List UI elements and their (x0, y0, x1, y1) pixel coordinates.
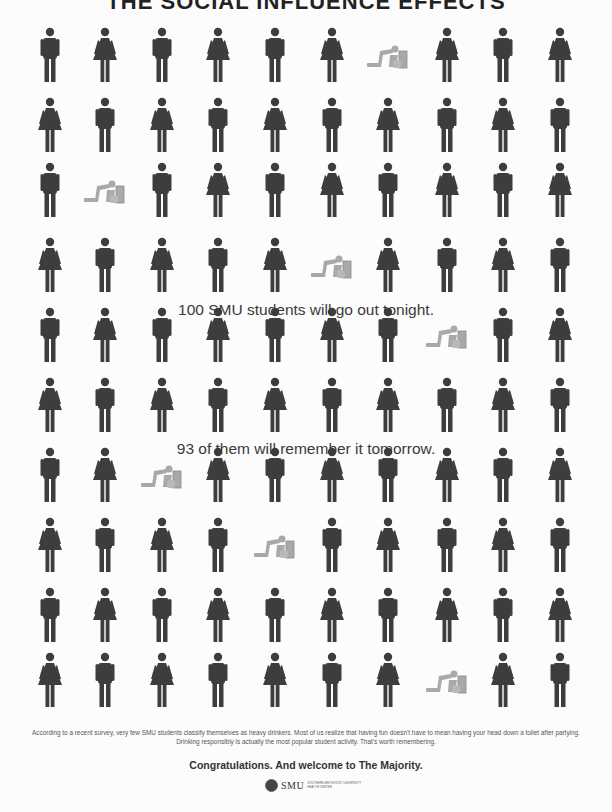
male-figure-icon (315, 517, 349, 573)
vomiting-figure-icon (83, 178, 127, 206)
female-figure-icon (88, 587, 122, 643)
male-figure-icon (258, 27, 292, 83)
poster: THE SOCIAL INFLUENCE EFFECTS 100 SMU stu… (0, 0, 612, 812)
caption-remember-tomorrow: 93 of them will remember it tomorrow. (0, 440, 612, 458)
male-figure-icon (201, 377, 235, 433)
female-figure-icon (486, 517, 520, 573)
male-figure-icon (201, 97, 235, 153)
female-figure-icon (258, 377, 292, 433)
logo-sub-line-2: HEALTH CENTER (307, 786, 361, 789)
male-figure-icon (430, 97, 464, 153)
logo-subtext: SOUTHERN METHODIST UNIVERSITY HEALTH CEN… (307, 782, 361, 789)
male-figure-icon (258, 587, 292, 643)
female-figure-icon (33, 237, 67, 293)
male-figure-icon (88, 517, 122, 573)
male-figure-icon (145, 587, 179, 643)
male-figure-icon (315, 652, 349, 708)
male-figure-icon (33, 27, 67, 83)
female-figure-icon (430, 162, 464, 218)
vomiting-figure-icon (425, 323, 469, 351)
female-figure-icon (543, 27, 577, 83)
female-figure-icon (145, 517, 179, 573)
male-figure-icon (315, 97, 349, 153)
male-figure-icon (430, 377, 464, 433)
female-figure-icon (145, 377, 179, 433)
female-figure-icon (315, 587, 349, 643)
female-figure-icon (258, 237, 292, 293)
female-figure-icon (486, 237, 520, 293)
female-figure-icon (145, 237, 179, 293)
female-figure-icon (201, 162, 235, 218)
female-figure-icon (258, 97, 292, 153)
male-figure-icon (201, 517, 235, 573)
female-figure-icon (371, 517, 405, 573)
female-figure-icon (145, 652, 179, 708)
female-figure-icon (371, 652, 405, 708)
female-figure-icon (33, 517, 67, 573)
male-figure-icon (201, 652, 235, 708)
survey-footnote: According to a recent survey, very few S… (30, 728, 582, 746)
female-figure-icon (486, 377, 520, 433)
male-figure-icon (145, 162, 179, 218)
female-figure-icon (543, 587, 577, 643)
male-figure-icon (543, 377, 577, 433)
male-figure-icon (88, 377, 122, 433)
male-figure-icon (430, 237, 464, 293)
female-figure-icon (543, 162, 577, 218)
smu-seal-icon (265, 779, 278, 792)
male-figure-icon (371, 162, 405, 218)
male-figure-icon (88, 237, 122, 293)
male-figure-icon (486, 587, 520, 643)
male-figure-icon (486, 27, 520, 83)
male-figure-icon (543, 237, 577, 293)
male-figure-icon (145, 27, 179, 83)
tagline: Congratulations. And welcome to The Majo… (0, 759, 612, 771)
logo-name: SMU (281, 780, 304, 791)
male-figure-icon (88, 97, 122, 153)
female-figure-icon (486, 652, 520, 708)
female-figure-icon (315, 27, 349, 83)
caption-go-out-tonight: 100 SMU students will go out tonight. (0, 301, 612, 319)
male-figure-icon (33, 162, 67, 218)
female-figure-icon (33, 97, 67, 153)
vomiting-figure-icon (140, 463, 184, 491)
poster-title: THE SOCIAL INFLUENCE EFFECTS (0, 0, 612, 15)
male-figure-icon (201, 237, 235, 293)
vomiting-figure-icon (253, 533, 297, 561)
male-figure-icon (486, 162, 520, 218)
vomiting-figure-icon (310, 253, 354, 281)
female-figure-icon (371, 377, 405, 433)
male-figure-icon (543, 97, 577, 153)
male-figure-icon (258, 162, 292, 218)
smu-logo: SMU SOUTHERN METHODIST UNIVERSITY HEALTH… (265, 778, 361, 792)
vomiting-figure-icon (425, 668, 469, 696)
female-figure-icon (371, 97, 405, 153)
male-figure-icon (315, 377, 349, 433)
female-figure-icon (33, 377, 67, 433)
female-figure-icon (315, 162, 349, 218)
female-figure-icon (201, 27, 235, 83)
male-figure-icon (430, 517, 464, 573)
female-figure-icon (430, 587, 464, 643)
male-figure-icon (543, 517, 577, 573)
female-figure-icon (88, 27, 122, 83)
female-figure-icon (486, 97, 520, 153)
male-figure-icon (371, 587, 405, 643)
female-figure-icon (430, 27, 464, 83)
vomiting-figure-icon (366, 43, 410, 71)
female-figure-icon (201, 587, 235, 643)
female-figure-icon (371, 237, 405, 293)
female-figure-icon (145, 97, 179, 153)
male-figure-icon (88, 652, 122, 708)
female-figure-icon (258, 652, 292, 708)
female-figure-icon (33, 652, 67, 708)
male-figure-icon (543, 652, 577, 708)
male-figure-icon (33, 587, 67, 643)
